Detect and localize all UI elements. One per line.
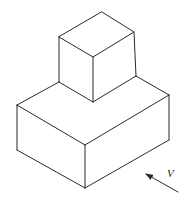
big-box-top-front-right-edge — [85, 95, 169, 145]
small-cube-right-edge — [134, 32, 136, 76]
isometric-diagram: V — [0, 0, 184, 201]
big-box-top-back-left-edge — [17, 82, 59, 105]
big-box-top-front-left-edge — [17, 105, 85, 145]
view-label: V — [167, 167, 175, 179]
small-cube-bottom-left-edge — [59, 82, 93, 102]
small-cube-top-face — [59, 12, 134, 57]
big-box-bottom-right-edge — [85, 140, 169, 188]
small-cube — [59, 12, 136, 102]
small-cube-bottom-right-edge — [93, 76, 136, 102]
view-direction: V — [146, 167, 178, 192]
big-box-top-back-right-edge — [136, 76, 169, 95]
big-box-bottom-left-edge — [17, 150, 85, 188]
